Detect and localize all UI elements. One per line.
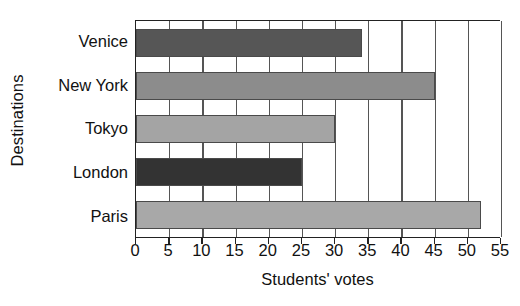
x-tick-label: 10 xyxy=(192,241,210,260)
bar xyxy=(136,72,435,100)
bar-chart: Destinations VeniceNew YorkTokyoLondonPa… xyxy=(0,0,520,306)
y-axis-title-label: Destinations xyxy=(8,74,27,166)
x-tick-label: 25 xyxy=(292,241,310,260)
x-tick-label: 55 xyxy=(491,241,509,260)
bar-slot xyxy=(136,21,500,64)
x-tick-label: 15 xyxy=(225,241,243,260)
x-tick-label: 40 xyxy=(391,241,409,260)
bar xyxy=(136,158,302,186)
bar xyxy=(136,115,335,143)
x-tick-label: 30 xyxy=(325,241,343,260)
category-label: Paris xyxy=(34,194,133,238)
x-axis-ticks: 0510152025303540455055 xyxy=(135,238,500,260)
x-tick-label: 35 xyxy=(358,241,376,260)
bar-slot xyxy=(136,64,500,107)
x-tick-label: 0 xyxy=(130,241,139,260)
x-axis-title: Students' votes xyxy=(135,270,500,289)
x-tick-label: 5 xyxy=(164,241,173,260)
bar-slot xyxy=(136,151,500,194)
x-tick-label: 45 xyxy=(424,241,442,260)
x-tick-label: 20 xyxy=(259,241,277,260)
bar xyxy=(136,29,362,57)
category-label: London xyxy=(34,151,133,195)
bar-slot xyxy=(136,194,500,237)
gridline xyxy=(501,21,502,237)
bar-slot xyxy=(136,107,500,150)
bar-series xyxy=(136,21,500,237)
category-label: Tokyo xyxy=(34,107,133,151)
category-axis-labels: VeniceNew YorkTokyoLondonParis xyxy=(34,20,133,238)
plot-area xyxy=(135,20,500,238)
category-label: Venice xyxy=(34,20,133,64)
y-axis-title: Destinations xyxy=(0,0,34,240)
category-label: New York xyxy=(34,64,133,108)
bar xyxy=(136,201,481,229)
x-tick-label: 50 xyxy=(458,241,476,260)
